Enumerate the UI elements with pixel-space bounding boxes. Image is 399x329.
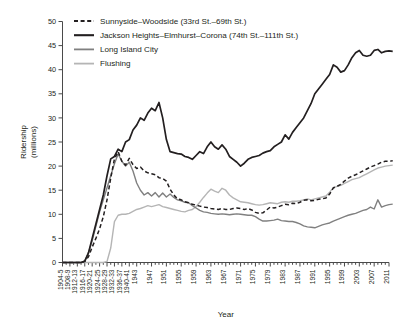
x-axis-tick-label: 1936-37 [116,269,123,294]
y-axis-tick-label: 10 [48,210,56,219]
y-axis-tick-label: 20 [48,162,56,171]
x-axis-tick-label: 1904-5 [57,269,64,290]
series-line-3 [63,165,393,262]
x-axis-tick-label: 1940-41 [123,269,130,294]
y-axis-tick-label: 45 [48,41,56,50]
legend-label-0: Sunnyside–Woodside (33rd St.–69th St.) [100,17,247,26]
x-axis-tick-label: 1928-29 [101,269,108,294]
x-axis-tick-label: 1943 [131,269,138,284]
legend-label-1: Jackson Heights–Elmhurst–Corona (74th St… [100,31,298,40]
x-axis-tick-label: 1912-13 [71,269,78,294]
x-axis-title: Year [218,310,235,319]
x-axis-tick-label: 1932-33 [108,269,115,294]
x-axis-tick-label: 1947 [146,269,153,284]
chart-canvas: 051015202530354045501904-51908-91912-131… [0,0,399,329]
x-axis-tick-label: 1955 [175,269,182,284]
x-axis-tick-label: 1987 [294,269,301,284]
x-axis-tick-label: 2011 [383,269,390,284]
y-axis-tick-label: 40 [48,65,56,74]
x-axis-tick-label: 1959 [190,269,197,284]
legend-label-2: Long Island City [100,45,159,54]
x-axis-tick-label: 1979 [264,269,271,284]
y-axis-tick-label: 5 [52,234,56,243]
y-axis-tick-label: 15 [48,186,56,195]
series-line-1 [63,49,393,262]
x-axis-tick-label: 1975 [249,269,256,284]
x-axis-tick-label: 1916-17 [79,269,86,294]
x-axis-tick-label: 1995 [324,269,331,284]
x-axis-tick-label: 1963 [205,269,212,284]
x-axis-tick-label: 1999 [338,269,345,284]
x-axis-tick-label: 1991 [309,269,316,284]
x-axis-tick-label: 1971 [235,269,242,284]
x-axis-tick-label: 1951 [160,269,167,284]
legend-label-3: Flushing [100,59,131,68]
y-axis-title-units: (millions) [29,126,38,158]
y-axis-tick-label: 0 [52,258,56,267]
y-axis-title: Ridership [19,125,28,159]
ridership-line-chart: 051015202530354045501904-51908-91912-131… [0,0,399,329]
x-axis-tick-label: 1967 [220,269,227,284]
y-axis-tick-label: 50 [48,17,56,26]
series-line-2 [63,154,393,262]
y-axis-tick-label: 35 [48,89,56,98]
x-axis-tick-label: 1924-25 [94,269,101,294]
x-axis-tick-label: 1920-21 [86,269,93,294]
x-axis-tick-label: 2007 [368,269,375,284]
series-line-0 [63,152,393,263]
y-axis-tick-label: 25 [48,138,56,147]
chart-axes [63,22,390,263]
x-axis-tick-label: 2003 [353,269,360,284]
x-axis-tick-label: 1908-9 [64,269,71,290]
x-axis-tick-label: 1983 [279,269,286,284]
y-axis-tick-label: 30 [48,114,56,123]
